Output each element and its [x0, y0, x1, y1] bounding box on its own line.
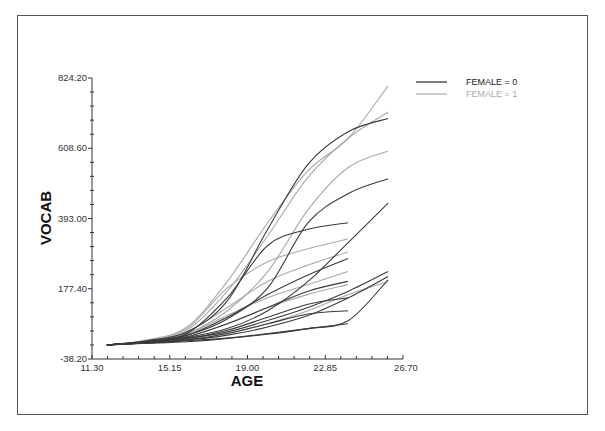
x-tick-label: 22.85 [313, 362, 337, 373]
curve-female-0 [107, 179, 388, 345]
x-tick-label: 15.15 [158, 362, 182, 373]
curve-female-1 [107, 252, 348, 345]
y-tick-label: 824.20 [58, 72, 87, 83]
y-tick-label: 608.60 [58, 142, 87, 153]
y-tick-label: 393.00 [58, 213, 87, 224]
curve-female-1 [107, 112, 388, 345]
curve-female-1 [107, 281, 388, 345]
data-curves [107, 86, 388, 345]
curve-female-0 [107, 272, 388, 345]
axes: 11.3015.1519.0022.8526.70-38.20177.40393… [58, 72, 418, 373]
y-tick-label: -38.20 [60, 353, 87, 364]
legend: FEMALE = 0 FEMALE = 1 [416, 77, 517, 99]
legend-label-female-1: FEMALE = 1 [466, 89, 517, 99]
x-tick-label: 26.70 [394, 362, 418, 373]
x-axis-title: AGE [231, 372, 264, 389]
y-tick-label: 177.40 [58, 283, 87, 294]
legend-label-female-0: FEMALE = 0 [466, 77, 517, 87]
y-axis-title: VOCAB [37, 191, 54, 245]
line-chart: 11.3015.1519.0022.8526.70-38.20177.40393… [0, 0, 605, 431]
curve-female-0 [107, 280, 388, 345]
